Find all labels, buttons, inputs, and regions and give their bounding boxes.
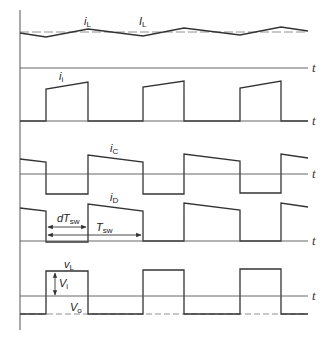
panel-input-current: ii t: [20, 70, 316, 128]
Tsw-label: Tsw: [96, 221, 113, 235]
dTsw-label: dTsw: [57, 212, 80, 226]
waveform-diagram: iL IL t ii t iC t iD dTsw Tsw t vL Vi Vo: [0, 0, 333, 343]
panel-diode-current: iD dTsw Tsw t: [20, 191, 316, 248]
ii-label: ii: [59, 70, 63, 84]
panel-inductor-voltage: vL Vi Vo t: [20, 258, 316, 315]
Vo-label: Vo: [70, 301, 82, 315]
t-label-3: t: [312, 166, 316, 181]
vL-label: vL: [64, 258, 75, 272]
Vi-label: Vi: [59, 277, 68, 291]
iL-label: iL: [84, 15, 91, 29]
t-label-1: t: [312, 60, 316, 75]
t-label-2: t: [312, 113, 316, 128]
t-label-4: t: [312, 233, 316, 248]
t-label-5: t: [312, 288, 316, 303]
IL-label: IL: [139, 15, 147, 29]
iD-label: iD: [110, 191, 118, 205]
vL-waveform: [20, 269, 308, 314]
panel-inductor-current: iL IL t: [20, 15, 316, 75]
panel-capacitor-current: iC t: [20, 142, 316, 194]
iC-label: iC: [110, 142, 118, 156]
ii-waveform: [20, 81, 308, 121]
